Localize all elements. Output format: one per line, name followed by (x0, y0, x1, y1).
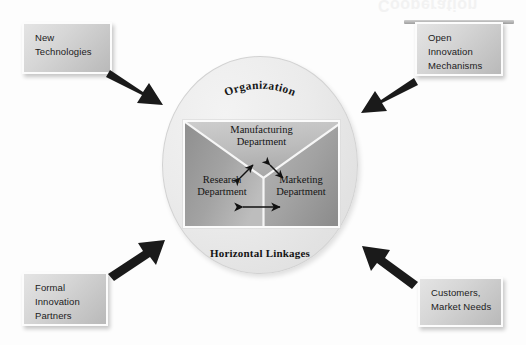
driver-new-technologies-line1: New (35, 31, 110, 45)
driver-open-innovation-line2: Innovation (428, 45, 501, 59)
diagram-canvas: Cooperation Organization Horizontal Link… (0, 0, 526, 345)
driver-box-formal-innovation-partners[interactable]: Formal Innovation Partners (22, 272, 108, 326)
driver-box-open-innovation-mechanisms[interactable]: Open Innovation Mechanisms (415, 22, 503, 76)
connector-arrow-new-technologies (106, 70, 163, 105)
driver-box-new-technologies[interactable]: New Technologies (22, 22, 112, 74)
driver-formal-partners-line3: Partners (35, 309, 106, 323)
driver-open-innovation-line3: Mechanisms (428, 59, 501, 73)
driver-new-technologies-line2: Technologies (35, 45, 110, 59)
connector-arrow-open-innovation (361, 78, 418, 113)
arrow-research-manufacturing (240, 165, 253, 178)
connector-arrow-customers (362, 246, 418, 289)
driver-customers-line2: Market Needs (431, 300, 501, 314)
driver-open-innovation-line1: Open (428, 31, 501, 45)
driver-customers-line1: Customers, (431, 286, 501, 300)
horizontal-linkages-label: Horizontal Linkages (162, 247, 358, 259)
page-watermark-text: Cooperation (378, 0, 478, 14)
driver-box-customers-market-needs[interactable]: Customers, Market Needs (418, 277, 503, 327)
internal-linkage-arrows (183, 120, 340, 228)
driver-formal-partners-line1: Formal (35, 281, 106, 295)
connector-arrow-formal-partners (108, 240, 165, 281)
organization-top-label: Organization (222, 79, 298, 98)
driver-formal-partners-line2: Innovation (35, 295, 106, 309)
arrow-manufacturing-marketing (270, 165, 283, 178)
